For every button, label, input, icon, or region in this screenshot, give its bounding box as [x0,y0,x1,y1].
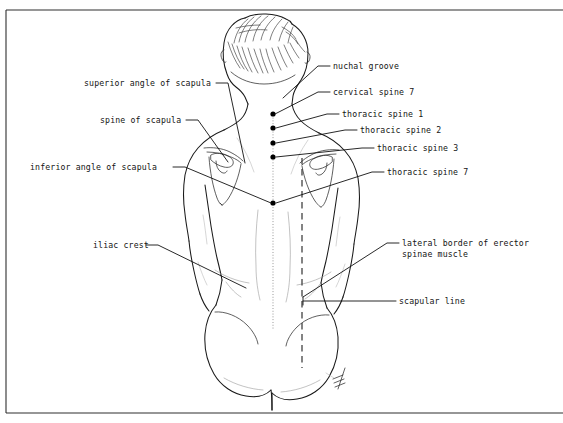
leader-lateral-border-erector-spinae [303,243,399,297]
dot-thoracic-spine-3 [270,154,275,159]
leader-cervical-spine-7 [275,92,330,114]
label-superior-angle-of-scapula: superior angle of scapula [84,78,211,88]
body-illustration [184,14,360,410]
page-frame [6,10,563,413]
right-scapula [300,150,339,207]
hatch-mark [326,368,345,389]
leader-thoracic-spine-3 [276,148,374,157]
label-scapular-line: scapular line [399,296,465,306]
label-cervical-spine-7: cervical spine 7 [333,87,414,97]
label-iliac-crest: iliac crest [93,240,149,250]
label-lateral-border-erector-spinae-line2: spinae muscle [402,249,468,259]
label-thoracic-spine-7: thoracic spine 7 [387,167,468,177]
leader-nuchal-groove [283,66,330,98]
dot-thoracic-spine-1 [270,125,275,130]
diagram-page: nuchal groove cervical spine 7 thoracic … [0,0,563,423]
label-inferior-angle-of-scapula: inferior angle of scapula [30,162,157,172]
dot-thoracic-spine-2 [270,140,275,145]
anatomy-figure: nuchal groove cervical spine 7 thoracic … [0,0,563,423]
label-lateral-border-erector-spinae-line1: lateral border of erector [402,238,529,248]
label-nuchal-groove: nuchal groove [333,61,399,71]
pelvis-buttocks [205,305,338,410]
label-thoracic-spine-1: thoracic spine 1 [342,109,423,119]
landmark-dots [270,111,275,205]
label-spine-of-scapula: spine of scapula [100,115,181,125]
label-thoracic-spine-2: thoracic spine 2 [360,125,441,135]
soft-tissue-shading [198,138,345,302]
label-thoracic-spine-3: thoracic spine 3 [377,143,458,153]
label-texts: nuchal groove cervical spine 7 thoracic … [30,61,529,306]
